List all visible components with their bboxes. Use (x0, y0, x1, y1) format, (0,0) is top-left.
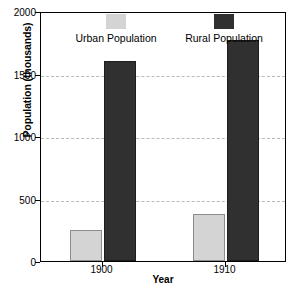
y-tick-mark-0 (35, 262, 40, 263)
y-tick-label-1000: 1000 (2, 132, 36, 143)
bar-urban-population-1900 (70, 230, 102, 261)
x-tick-mark-1900 (102, 262, 103, 267)
y-tick-label-500: 500 (2, 194, 36, 205)
legend-entry-rural-population[interactable]: Rural Population (164, 14, 284, 48)
y-tick-label-0: 0 (2, 257, 36, 268)
y-tick-label-2000: 2000 (2, 7, 36, 18)
bar-rural-population-1900 (104, 61, 136, 261)
bar-chart: Population (thousands) 0500100015002000 … (0, 0, 291, 286)
x-tick-mark-1910 (225, 262, 226, 267)
legend-entry-urban-population[interactable]: Urban Population (56, 14, 176, 48)
y-tick-label-1500: 1500 (2, 69, 36, 80)
y-axis-tick-labels: 0500100015002000 (0, 0, 36, 286)
legend-swatch-icon-urban (106, 14, 126, 29)
x-axis-title: Year (40, 274, 286, 285)
legend-label: Urban Population (75, 32, 156, 44)
legend-label: Rural Population (185, 32, 263, 44)
bar-rural-population-1910 (227, 40, 259, 261)
legend-swatch-icon-rural (214, 14, 234, 29)
legend: Urban PopulationRural Population (44, 14, 280, 50)
bar-urban-population-1910 (193, 214, 225, 262)
